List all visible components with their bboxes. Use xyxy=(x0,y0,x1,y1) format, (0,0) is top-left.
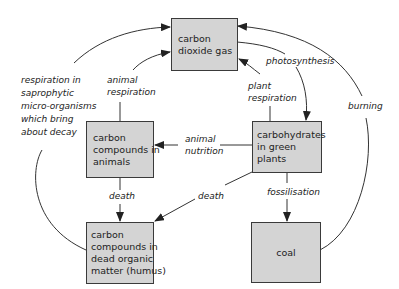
burning-arrow-bottom xyxy=(320,118,369,250)
label-line: which bring xyxy=(21,113,96,126)
node-label-line: dead organic xyxy=(91,253,149,265)
plant-respiration-arrow-top xyxy=(239,59,260,74)
saprophytic-respiration-arrow-top xyxy=(74,27,170,63)
label-death-plants: death xyxy=(198,190,224,202)
node-label-line: animals xyxy=(93,156,147,168)
label-line: animal xyxy=(107,74,156,86)
label-line: photosynthesis xyxy=(266,55,334,67)
label-line: plant xyxy=(248,80,297,92)
label-line: respiration xyxy=(107,86,156,98)
label-burning: burning xyxy=(348,100,383,112)
node-label-line: coal xyxy=(276,247,296,259)
animal-respiration-arrow-top xyxy=(133,52,170,70)
label-line: burning xyxy=(348,100,383,112)
label-fossilisation: fossilisation xyxy=(267,186,320,198)
label-line: saprophytic xyxy=(21,87,96,100)
node-label-line: carbon xyxy=(178,33,231,45)
label-line: about decay xyxy=(21,126,96,139)
node-label-line: matter (humus) xyxy=(91,265,149,277)
node-label-line: compounds in xyxy=(91,241,149,253)
label-line: animal xyxy=(185,133,223,145)
node-label-line: compounds in xyxy=(93,144,147,156)
label-photosynthesis: photosynthesis xyxy=(266,55,334,67)
label-line: nutrition xyxy=(185,145,223,157)
node-dead-organic-matter: carbon compounds in dead organic matter … xyxy=(86,222,154,284)
label-animal-nutrition: animal nutrition xyxy=(185,133,223,157)
label-line: micro-organisms xyxy=(21,100,96,113)
node-label-line: carbon xyxy=(91,229,149,241)
death-plants-arrow-bottom xyxy=(155,199,195,221)
saprophytic-respiration-arrow xyxy=(36,150,86,250)
label-plant-respiration: plant respiration xyxy=(248,80,297,104)
label-line: respiration xyxy=(248,92,297,104)
node-label-line: carbohydrates xyxy=(257,129,317,141)
label-death-animals: death xyxy=(109,190,135,202)
label-animal-respiration: animal respiration xyxy=(107,74,156,98)
label-line: fossilisation xyxy=(267,186,320,198)
node-carbon-dioxide-gas: carbon dioxide gas xyxy=(171,18,238,71)
death-plants-arrow-top xyxy=(225,172,252,185)
node-carbohydrates-in-green-plants: carbohydrates in green plants xyxy=(252,121,322,173)
node-label-line: in green xyxy=(257,141,317,153)
node-label-line: plants xyxy=(257,153,317,165)
label-line: death xyxy=(109,190,135,202)
label-line: death xyxy=(198,190,224,202)
node-label-line: carbon xyxy=(93,132,147,144)
label-line: respiration in xyxy=(21,74,96,87)
photosynthesis-arrow-top xyxy=(237,42,285,54)
label-saprophytic-respiration: respiration in saprophytic micro-organis… xyxy=(21,74,96,139)
node-coal: coal xyxy=(251,222,321,283)
photosynthesis-arrow-bottom xyxy=(296,67,307,120)
node-label-line: dioxide gas xyxy=(178,45,231,57)
